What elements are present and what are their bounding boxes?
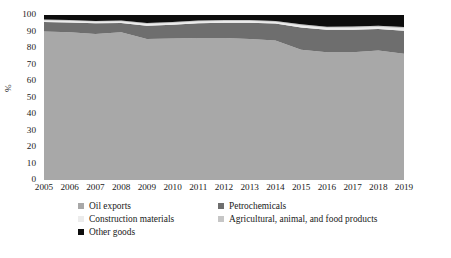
y-axis-tick: 10 — [27, 159, 36, 168]
x-axis-tick: 2011 — [189, 182, 207, 192]
legend-item-petrochemicals[interactable]: Petrochemicals — [218, 201, 286, 211]
x-axis-tick: 2013 — [241, 182, 259, 192]
area-series-oil-exports — [44, 32, 404, 181]
x-axis-tick: 2017 — [343, 182, 361, 192]
y-axis-tick: 50 — [27, 93, 36, 102]
y-axis-tick: 20 — [27, 142, 36, 151]
x-axis-tick: 2005 — [35, 182, 53, 192]
x-axis-tick: 2019 — [395, 182, 413, 192]
legend-item-label: Oil exports — [89, 201, 131, 211]
legend-swatch-icon — [78, 203, 84, 209]
legend-swatch-icon — [78, 216, 84, 222]
y-axis-tick-labels: 1009080706050403020100 — [0, 15, 40, 180]
y-axis-tick: 40 — [27, 109, 36, 118]
stacked-area-plot — [44, 15, 404, 180]
x-axis-tick: 2016 — [318, 182, 336, 192]
legend-item-label: Agricultural, animal, and food products — [229, 214, 377, 224]
legend-item-oil-exports[interactable]: Oil exports — [78, 201, 131, 211]
legend-swatch-icon — [218, 216, 224, 222]
legend-item-label: Other goods — [89, 227, 135, 237]
x-axis-tick: 2006 — [61, 182, 79, 192]
legend-swatch-icon — [78, 229, 84, 235]
x-axis-tick: 2012 — [215, 182, 233, 192]
y-axis-tick: 30 — [27, 126, 36, 135]
plot-area — [44, 15, 404, 180]
x-axis-tick: 2008 — [112, 182, 130, 192]
x-axis-tick-labels: 2005200620072008200920102011201220132014… — [44, 182, 404, 196]
y-axis-tick: 60 — [27, 76, 36, 85]
y-axis-tick: 100 — [22, 10, 36, 19]
x-axis-tick: 2014 — [266, 182, 284, 192]
legend-item-label: Construction materials — [89, 214, 174, 224]
y-axis-tick: 80 — [27, 43, 36, 52]
legend-row: Other goods — [78, 225, 135, 238]
legend-item-other-goods[interactable]: Other goods — [78, 227, 135, 237]
y-axis-tick: 70 — [27, 60, 36, 69]
x-axis-tick: 2009 — [138, 182, 156, 192]
legend-item-construction-materials[interactable]: Construction materials — [78, 214, 174, 224]
legend-row: Petrochemicals — [218, 199, 286, 212]
legend-row: Construction materials — [78, 212, 174, 225]
legend-row: Agricultural, animal, and food products — [218, 212, 377, 225]
x-axis-tick: 2007 — [86, 182, 104, 192]
y-axis-tick: 90 — [27, 27, 36, 36]
legend-item-agricultural-animal-food-products[interactable]: Agricultural, animal, and food products — [218, 214, 377, 224]
legend-row: Oil exports — [78, 199, 131, 212]
x-axis-tick: 2010 — [163, 182, 181, 192]
x-axis-tick: 2018 — [369, 182, 387, 192]
x-axis-tick: 2015 — [292, 182, 310, 192]
chart-legend: Oil exports Petrochemicals Construction … — [78, 199, 418, 241]
legend-swatch-icon — [218, 203, 224, 209]
legend-item-label: Petrochemicals — [229, 201, 286, 211]
chart-container: % 1009080706050403020100 200520062007200… — [0, 0, 451, 258]
